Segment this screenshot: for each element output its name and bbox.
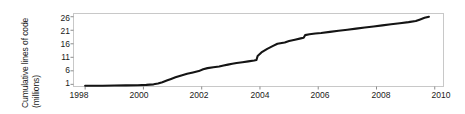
x-tick-label: 2008 — [372, 90, 391, 100]
x-tick-label: 2006 — [311, 90, 330, 100]
chart-figure: Cumulative lines of code (millions) 26 2… — [0, 0, 465, 114]
x-tick-label: 2002 — [190, 90, 209, 100]
x-tick-label: 1998 — [70, 90, 89, 100]
x-tick-label: 2004 — [251, 90, 270, 100]
x-axis-tick-labels: 1998 2000 2002 2004 2006 2008 2010 — [0, 0, 465, 114]
x-tick-label: 2010 — [432, 90, 451, 100]
x-tick-label: 2000 — [130, 90, 149, 100]
